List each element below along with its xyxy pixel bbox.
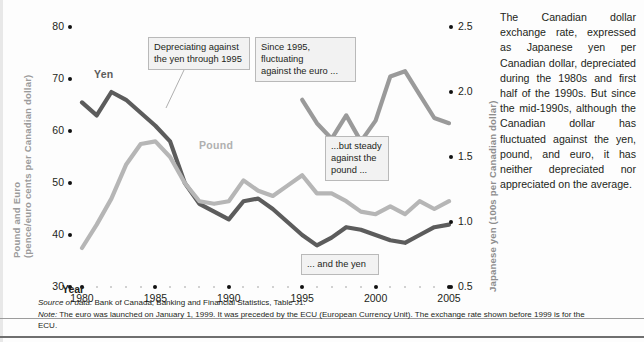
right-tick-dot-1.5 <box>449 155 453 159</box>
source-text: Bank of Canada, Banking and Financial St… <box>92 298 305 307</box>
x-tick-dot-1984 <box>140 286 142 288</box>
x-tick-dot-1987 <box>184 286 186 288</box>
right-axis-title: Japanese yen (100s per Canadian dollar) <box>487 42 498 292</box>
x-tick-dot-2005 <box>447 285 451 289</box>
right-tick-label-2.5: 2.5 <box>458 20 473 32</box>
x-tick-dot-1996 <box>316 286 318 288</box>
left-tick-dot-50 <box>68 181 72 185</box>
x-tick-dot-1990 <box>227 285 231 289</box>
right-tick-dot-1.0 <box>449 220 453 224</box>
x-tick-dot-2002 <box>404 286 406 288</box>
series-label-yen: Yen <box>94 68 114 80</box>
footnotes-block: Source of data: Bank of Canada, Banking … <box>38 297 598 332</box>
right-tick-label-1.0: 1.0 <box>458 215 473 227</box>
right-tick-dot-2.5 <box>449 25 453 29</box>
x-tick-dot-2003 <box>419 286 421 288</box>
left-tick-label-60: 60 <box>44 124 64 136</box>
left-tick-dot-80 <box>68 25 72 29</box>
series-line-pound <box>82 141 449 248</box>
x-tick-dot-1993 <box>272 286 274 288</box>
right-tick-label-2.0: 2.0 <box>458 85 473 97</box>
left-tick-label-30: 30 <box>44 280 64 292</box>
divider-bottom <box>0 336 644 338</box>
source-label: Source of data: <box>38 298 92 307</box>
callout-fluctuating-euro: Since 1995, fluctuating against the euro… <box>255 37 356 82</box>
x-axis-title: Year <box>62 283 84 295</box>
x-tick-dot-1997 <box>331 286 333 288</box>
left-axis-title: Pound and Euro (pence/euro cents per Can… <box>11 28 33 258</box>
sidebar-description: The Canadian dollar exchange rate, expre… <box>500 10 636 192</box>
x-tick-dot-1983 <box>125 286 127 288</box>
left-tick-dot-70 <box>68 77 72 81</box>
left-tick-label-50: 50 <box>44 176 64 188</box>
x-tick-dot-1999 <box>360 286 362 288</box>
right-tick-dot-2.0 <box>449 90 453 94</box>
left-axis-title-line2: (pence/euro cents per Canadian dollar) <box>22 75 33 258</box>
left-tick-label-80: 80 <box>44 20 64 32</box>
x-tick-dot-1994 <box>287 286 289 288</box>
source-line: Source of data: Bank of Canada, Banking … <box>38 297 598 309</box>
series-line-yen <box>82 92 449 245</box>
note-label: Note: <box>38 310 57 319</box>
left-tick-label-70: 70 <box>44 72 64 84</box>
right-tick-label-1.5: 1.5 <box>458 150 473 162</box>
x-tick-dot-2000 <box>374 285 378 289</box>
figure-panel: Pound and Euro (pence/euro cents per Can… <box>0 0 644 342</box>
left-tick-dot-60 <box>68 129 72 133</box>
series-label-pound: Pound <box>199 139 233 151</box>
left-tick-label-40: 40 <box>44 228 64 240</box>
note-text: The euro was launched on January 1, 1999… <box>38 310 585 331</box>
note-line: Note: The euro was launched on January 1… <box>38 309 598 332</box>
callout-and-the-yen: ... and the yen <box>301 254 379 275</box>
left-axis-title-line1: Pound and Euro <box>11 182 22 258</box>
callout-steady-pound: ...but steady against the pound ... <box>325 136 389 181</box>
callout-depreciating-yen: Depreciating against the yen through 199… <box>148 37 250 70</box>
left-tick-dot-40 <box>68 233 72 237</box>
right-tick-label-0.5: 0.5 <box>458 280 473 292</box>
x-tick-dot-1981 <box>96 286 98 288</box>
